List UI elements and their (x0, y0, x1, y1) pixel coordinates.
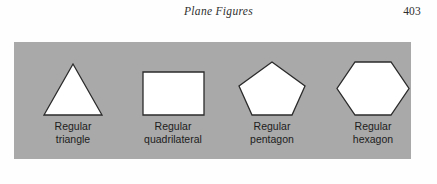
hexagon-label-line2: hexagon (318, 133, 428, 146)
quadrilateral-label-line2: quadrilateral (118, 133, 228, 146)
triangle-label-line2: triangle (20, 133, 126, 146)
hexagon-label: Regular hexagon (318, 120, 428, 145)
triangle-label: Regular triangle (20, 120, 126, 145)
running-head-title: Plane Figures (0, 5, 437, 17)
pentagon-label-line2: pentagon (220, 133, 324, 146)
regular-pentagon-icon (220, 42, 324, 122)
pentagon-label: Regular pentagon (220, 120, 324, 145)
hexagon-label-line1: Regular (318, 120, 428, 133)
triangle-shape-area (20, 42, 126, 122)
hexagon-shape-area (318, 42, 428, 122)
regular-triangle-icon (20, 42, 126, 122)
quadrilateral-label-line1: Regular (118, 120, 228, 133)
shape-cell-triangle: Regular triangle (20, 42, 126, 159)
running-head: Plane Figures 403 (0, 5, 437, 23)
regular-quadrilateral-icon (118, 42, 228, 122)
page-number: 403 (403, 5, 421, 17)
quadrilateral-shape-area (118, 42, 228, 122)
regular-hexagon-icon (318, 42, 428, 122)
figure-panel: Regular triangle Regular quadrilateral (14, 42, 411, 159)
shape-cell-hexagon: Regular hexagon (318, 42, 428, 159)
quadrilateral-label: Regular quadrilateral (118, 120, 228, 145)
shape-cell-pentagon: Regular pentagon (220, 42, 324, 159)
textbook-page: Plane Figures 403 Regular triangle Regul… (0, 0, 437, 184)
pentagon-label-line1: Regular (220, 120, 324, 133)
triangle-label-line1: Regular (20, 120, 126, 133)
shape-cell-quadrilateral: Regular quadrilateral (118, 42, 228, 159)
pentagon-shape-area (220, 42, 324, 122)
